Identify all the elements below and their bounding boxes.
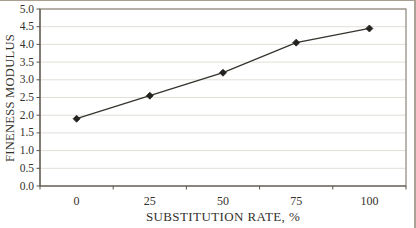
y-tick-label: 2.0 [20, 109, 35, 121]
y-tick-label: 0.0 [20, 180, 35, 192]
data-point-marker [366, 25, 373, 32]
y-axis-title: FINENESS MODULUS [3, 34, 18, 162]
scanned-chart-page: 0.00.51.01.52.02.53.03.54.04.55.00255075… [0, 0, 416, 228]
data-point-marker [220, 69, 227, 76]
fineness-modulus-chart: 0.00.51.01.52.02.53.03.54.04.55.00255075… [0, 1, 414, 228]
y-tick-label: 4.5 [20, 20, 35, 32]
y-tick-label: 2.5 [20, 91, 35, 103]
y-tick-label: 3.0 [20, 73, 35, 85]
line-chart-canvas: 0.00.51.01.52.02.53.03.54.04.55.00255075… [0, 1, 416, 228]
x-tick-label: 25 [144, 194, 156, 208]
data-point-marker [146, 92, 153, 99]
y-tick-label: 4.0 [20, 38, 35, 50]
x-tick-label: 50 [217, 194, 229, 208]
data-point-marker [73, 115, 80, 122]
y-tick-label: 3.5 [20, 56, 35, 68]
y-tick-label: 1.0 [20, 144, 35, 156]
y-tick-label: 0.5 [20, 162, 35, 174]
x-tick-label: 0 [74, 194, 80, 208]
data-point-marker [293, 39, 300, 46]
y-tick-label: 1.5 [20, 126, 35, 138]
x-tick-label: 100 [360, 194, 378, 208]
x-axis-title: SUBSTITUTION RATE, % [40, 209, 406, 225]
x-tick-label: 75 [290, 194, 302, 208]
y-tick-label: 5.0 [20, 3, 35, 15]
